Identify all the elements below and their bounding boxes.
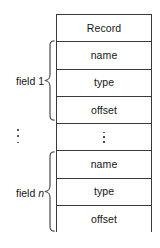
cell-label-offset-first: offset bbox=[91, 105, 117, 116]
cell-label-name-last: name bbox=[91, 159, 118, 170]
left-vertical-ellipsis-icon bbox=[17, 129, 19, 143]
record-row-field1-name: name bbox=[57, 42, 151, 69]
record-structure-diagram: Record name type offset name type offset… bbox=[0, 0, 160, 248]
cell-label-offset-last: offset bbox=[91, 214, 117, 225]
cell-label-type-last: type bbox=[94, 186, 114, 197]
field-last-label: field n bbox=[4, 188, 44, 199]
record-row-gap-ellipsis bbox=[57, 124, 151, 151]
curly-brace-field-last-icon bbox=[44, 151, 55, 232]
field-first-label: field 1 bbox=[4, 76, 44, 87]
vertical-ellipsis-icon bbox=[103, 132, 105, 143]
record-row-field1-offset: offset bbox=[57, 97, 151, 124]
record-row-fieldn-offset: offset bbox=[57, 206, 151, 233]
curly-brace-field-first-icon bbox=[44, 40, 55, 121]
field-first-label-prefix: field bbox=[16, 75, 38, 87]
cell-label-type-first: type bbox=[94, 77, 114, 88]
record-row-fieldn-name: name bbox=[57, 151, 151, 178]
record-table: Record name type offset name type offset bbox=[56, 14, 152, 232]
record-row-header: Record bbox=[57, 15, 151, 42]
cell-label-name-first: name bbox=[91, 50, 118, 61]
record-row-field1-type: type bbox=[57, 70, 151, 97]
field-last-label-prefix: field bbox=[16, 187, 38, 199]
cell-label-record: Record bbox=[87, 23, 121, 34]
record-row-fieldn-type: type bbox=[57, 179, 151, 206]
